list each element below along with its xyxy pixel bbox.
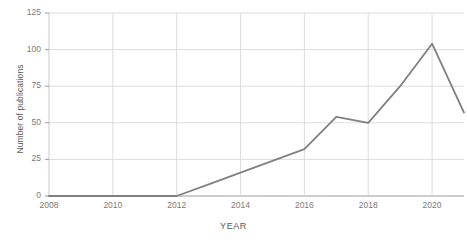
publications-line-chart: Number of publications YEAR 025507510012… xyxy=(0,0,467,242)
x-axis-title: YEAR xyxy=(0,221,467,231)
x-tick-label: 2008 xyxy=(29,200,69,210)
x-tick-label: 2016 xyxy=(284,200,324,210)
y-tick-label: 50 xyxy=(7,117,41,127)
x-tick-label: 2010 xyxy=(93,200,133,210)
x-tick-label: 2018 xyxy=(348,200,388,210)
data-series-line xyxy=(49,44,464,196)
y-tick-label: 100 xyxy=(7,44,41,54)
y-tick-label: 75 xyxy=(7,80,41,90)
y-tick-label: 0 xyxy=(7,190,41,200)
x-tick-label: 2014 xyxy=(221,200,261,210)
x-tick-label: 2012 xyxy=(157,200,197,210)
x-tick-label: 2020 xyxy=(412,200,452,210)
y-tick-label: 125 xyxy=(7,7,41,17)
y-tick-label: 25 xyxy=(7,153,41,163)
